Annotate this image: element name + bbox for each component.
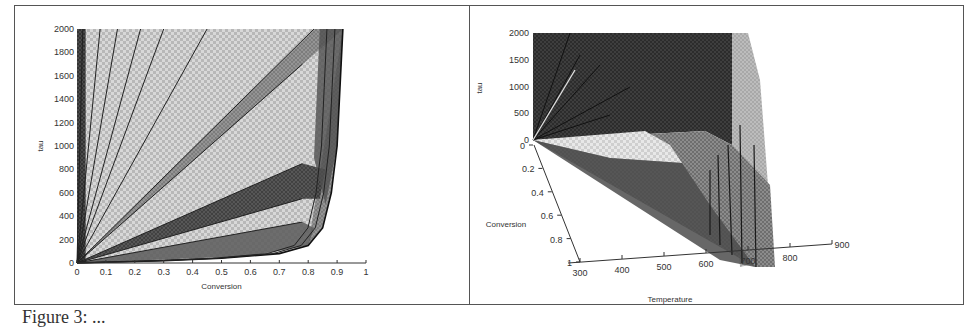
conversion-axis-label: Conversion <box>486 220 526 229</box>
right-plot-panel: 00.20.40.60.8130040050060070080090005001… <box>470 5 964 305</box>
x-tick-label: 0.1 <box>100 267 113 277</box>
conversion-tick-label: 0.2 <box>522 164 535 174</box>
temperature-tick-label: 900 <box>834 240 849 250</box>
y-tick-label: 1400 <box>54 94 74 104</box>
tau-axis-label: tau <box>475 82 484 93</box>
conversion-tick-label: 0.8 <box>550 235 563 245</box>
y-tick-label: 1800 <box>54 47 74 57</box>
left-plot-panel: 00.10.20.30.40.50.60.70.80.9102004006008… <box>15 5 469 305</box>
tau-tick-label: 1000 <box>509 82 529 92</box>
temperature-tick-label: 700 <box>740 256 755 266</box>
conversion-tick-label: 0.4 <box>531 188 544 198</box>
x-tick-label: 0.5 <box>215 267 228 277</box>
x-axis-label: Conversion <box>201 282 241 291</box>
temperature-tick-label: 600 <box>698 259 713 269</box>
temperature-tick-label: 800 <box>782 253 797 263</box>
figure-caption: Figure 3: ... <box>22 308 106 326</box>
tau-tick-label: 500 <box>514 108 529 118</box>
left-plot-area <box>77 29 343 263</box>
x-tick-label: 0 <box>74 267 79 277</box>
tau-tick-label: 2000 <box>509 28 529 38</box>
y-tick-label: 400 <box>59 211 74 221</box>
temperature-tick-label: 500 <box>656 262 671 272</box>
x-tick-label: 0.7 <box>273 267 286 277</box>
y-tick-label: 1600 <box>54 71 74 81</box>
left-plot: 00.10.20.30.40.50.60.70.80.9102004006008… <box>15 5 469 305</box>
y-tick-label: 2000 <box>54 24 74 34</box>
x-tick-label: 0.6 <box>244 267 257 277</box>
right-plot-area <box>533 33 775 267</box>
x-tick-label: 0.3 <box>157 267 170 277</box>
x-tick-label: 0.9 <box>331 267 344 277</box>
right-3d-plot: 00.20.40.60.8130040050060070080090005001… <box>470 5 964 305</box>
x-tick-label: 0.4 <box>186 267 199 277</box>
y-tick-label: 1200 <box>54 118 74 128</box>
tau-tick-label: 1500 <box>509 55 529 65</box>
conversion-tick-label: 0.6 <box>541 211 554 221</box>
temperature-tick-label: 300 <box>572 268 587 278</box>
x-tick-label: 1 <box>363 267 368 277</box>
x-tick-label: 0.2 <box>129 267 142 277</box>
tau-tick-label: 0 <box>524 135 529 145</box>
temperature-tick-label: 400 <box>614 265 629 275</box>
x-tick-label: 0.8 <box>302 267 315 277</box>
y-tick-label: 200 <box>59 235 74 245</box>
temperature-axis-label: Temperature <box>648 295 693 304</box>
y-tick-label: 0 <box>69 258 74 268</box>
y-axis-label: tau <box>36 140 45 151</box>
y-tick-label: 800 <box>59 164 74 174</box>
y-tick-label: 1000 <box>54 141 74 151</box>
y-tick-label: 600 <box>59 188 74 198</box>
